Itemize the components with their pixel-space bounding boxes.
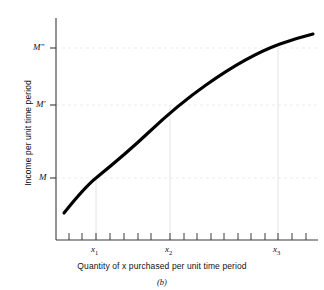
income-curve (64, 34, 313, 213)
y-tick-label-m-double-prime: M″ (33, 43, 44, 52)
x3-sub: 3 (277, 249, 280, 256)
horizontal-gridlines (56, 48, 318, 178)
y-tick-label-m-prime: M′ (36, 100, 45, 109)
x2-sub: 2 (169, 249, 172, 256)
x-axis (56, 233, 318, 240)
x-tick-label-x1: x1 (91, 245, 98, 256)
x-axis-title: Quantity of x purchased per unit time pe… (0, 261, 324, 271)
y-axis (50, 18, 56, 240)
y-axis-title: Income per unit time period (23, 43, 33, 223)
vertical-gridlines (96, 48, 278, 240)
x1-sub: 1 (95, 249, 98, 256)
panel-caption: (b) (0, 277, 324, 287)
figure-panel-b: M″ M′ M x1 x2 x3 Income per unit time pe… (0, 0, 324, 290)
y-tick-label-m: M (39, 173, 47, 182)
x-tick-label-x3: x3 (273, 245, 280, 256)
x-tick-label-x2: x2 (165, 245, 172, 256)
